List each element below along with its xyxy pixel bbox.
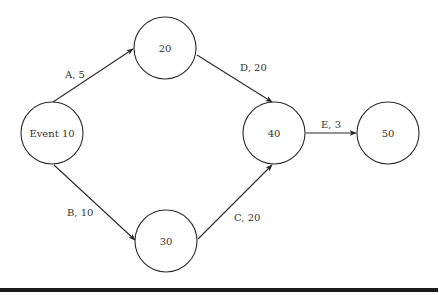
node-20-label: 20	[159, 43, 172, 54]
node-20: 20	[134, 17, 196, 79]
bottom-rule-divider	[0, 288, 438, 292]
edge-b-arrow	[54, 165, 135, 240]
edge-e-label: E, 3	[321, 119, 341, 130]
node-40-label: 40	[268, 128, 281, 139]
node-40: 40	[243, 102, 305, 164]
node-50: 50	[357, 102, 419, 164]
edge-b-label: B, 10	[67, 207, 93, 218]
node-50-label: 50	[382, 128, 395, 139]
edge-a-label: A, 5	[64, 69, 85, 80]
node-10-label: Event 10	[29, 128, 74, 139]
network-diagram: A, 5 B, 10 C, 20 D, 20 E, 3 Event 10 20 …	[0, 0, 439, 295]
node-30: 30	[135, 210, 197, 272]
edge-d-label: D, 20	[240, 62, 267, 73]
edge-c-label: C, 20	[234, 212, 260, 223]
node-event-10: Event 10	[21, 102, 83, 164]
node-30-label: 30	[160, 236, 173, 247]
edge-c-arrow	[198, 165, 272, 239]
